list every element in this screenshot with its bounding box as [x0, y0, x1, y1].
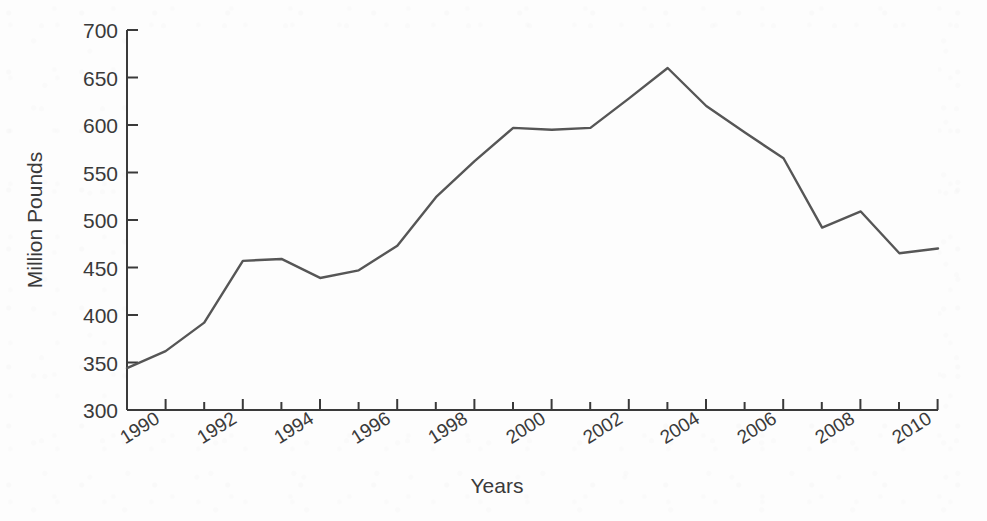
x-axis-tick-labels: 1990 1992 1994 1996 1998 2000 2002 2004 …	[116, 407, 935, 447]
x-tick-label: 1996	[347, 408, 394, 448]
x-tick-label: 2006	[733, 408, 780, 448]
x-tick-label: 1998	[424, 408, 471, 448]
y-axis-tick-labels: 300 350 400 450 500 550 600 650 700	[83, 19, 118, 422]
y-tick-label: 550	[83, 162, 118, 185]
y-tick-label: 350	[83, 352, 118, 375]
plot-background	[127, 30, 938, 410]
x-tick-label: 1994	[270, 407, 317, 447]
y-axis-title: Million Pounds	[23, 152, 46, 289]
y-tick-label: 450	[83, 257, 118, 280]
line-chart: 300 350 400 450 500 550 600 650 700	[0, 0, 987, 521]
x-tick-label: 2008	[811, 408, 858, 448]
y-tick-label: 650	[83, 67, 118, 90]
chart-page: 300 350 400 450 500 550 600 650 700	[0, 0, 987, 521]
y-tick-label: 700	[83, 19, 118, 42]
x-tick-label: 1990	[116, 408, 163, 448]
x-tick-label: 2000	[502, 408, 549, 448]
x-tick-label: 2010	[888, 408, 935, 448]
y-tick-label: 600	[83, 114, 118, 137]
y-tick-label: 300	[83, 399, 118, 422]
y-tick-label: 500	[83, 209, 118, 232]
x-tick-label: 2002	[579, 408, 626, 448]
y-tick-label: 400	[83, 304, 118, 327]
x-tick-label: 1992	[193, 408, 240, 448]
x-axis-title: Years	[471, 474, 524, 497]
x-tick-label: 2004	[656, 407, 703, 447]
